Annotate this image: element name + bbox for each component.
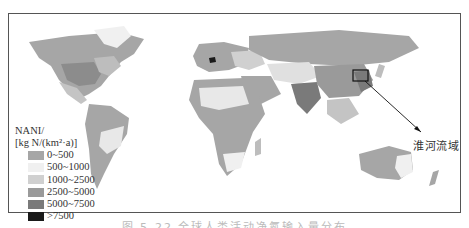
benelux-region <box>209 57 216 63</box>
new-zealand-region <box>429 170 439 186</box>
map-frame: NANI/ [kg N/(km²·a)] 0~500 500~1000 1000… <box>8 13 461 213</box>
legend-item: 1000~2500 <box>15 174 95 186</box>
southeast-asia-region <box>327 98 359 124</box>
japan-region <box>375 64 385 78</box>
madagascar-region <box>255 138 261 156</box>
legend-item: 500~1000 <box>15 161 95 173</box>
map-legend: NANI/ [kg N/(km²·a)] 0~500 500~1000 1000… <box>15 125 95 223</box>
legend-label: 5000~7500 <box>47 198 95 211</box>
legend-label: 1000~2500 <box>47 174 95 187</box>
legend-swatch <box>28 200 44 209</box>
legend-label: 500~1000 <box>47 161 89 174</box>
legend-item: 2500~5000 <box>15 186 95 198</box>
legend-title-line2: [kg N/(km²·a)] <box>15 137 95 149</box>
legend-item: 5000~7500 <box>15 198 95 210</box>
legend-title-line1: NANI/ <box>15 125 95 137</box>
figure-caption: 图 5-22 全球人类活动净氮输入量分布 <box>0 218 469 228</box>
asia-north-region <box>249 30 419 66</box>
legend-swatch <box>28 175 44 184</box>
annotation-arrow <box>365 81 421 132</box>
legend-label: 2500~5000 <box>47 186 95 199</box>
central-asia-region <box>267 62 321 84</box>
legend-swatch <box>28 188 44 197</box>
india-region <box>291 82 321 114</box>
legend-swatch <box>28 151 44 160</box>
legend-label: 0~500 <box>47 149 74 162</box>
legend-swatch <box>28 163 44 172</box>
huai-river-label: 淮河流域 <box>413 137 459 153</box>
legend-item: 0~500 <box>15 149 95 161</box>
